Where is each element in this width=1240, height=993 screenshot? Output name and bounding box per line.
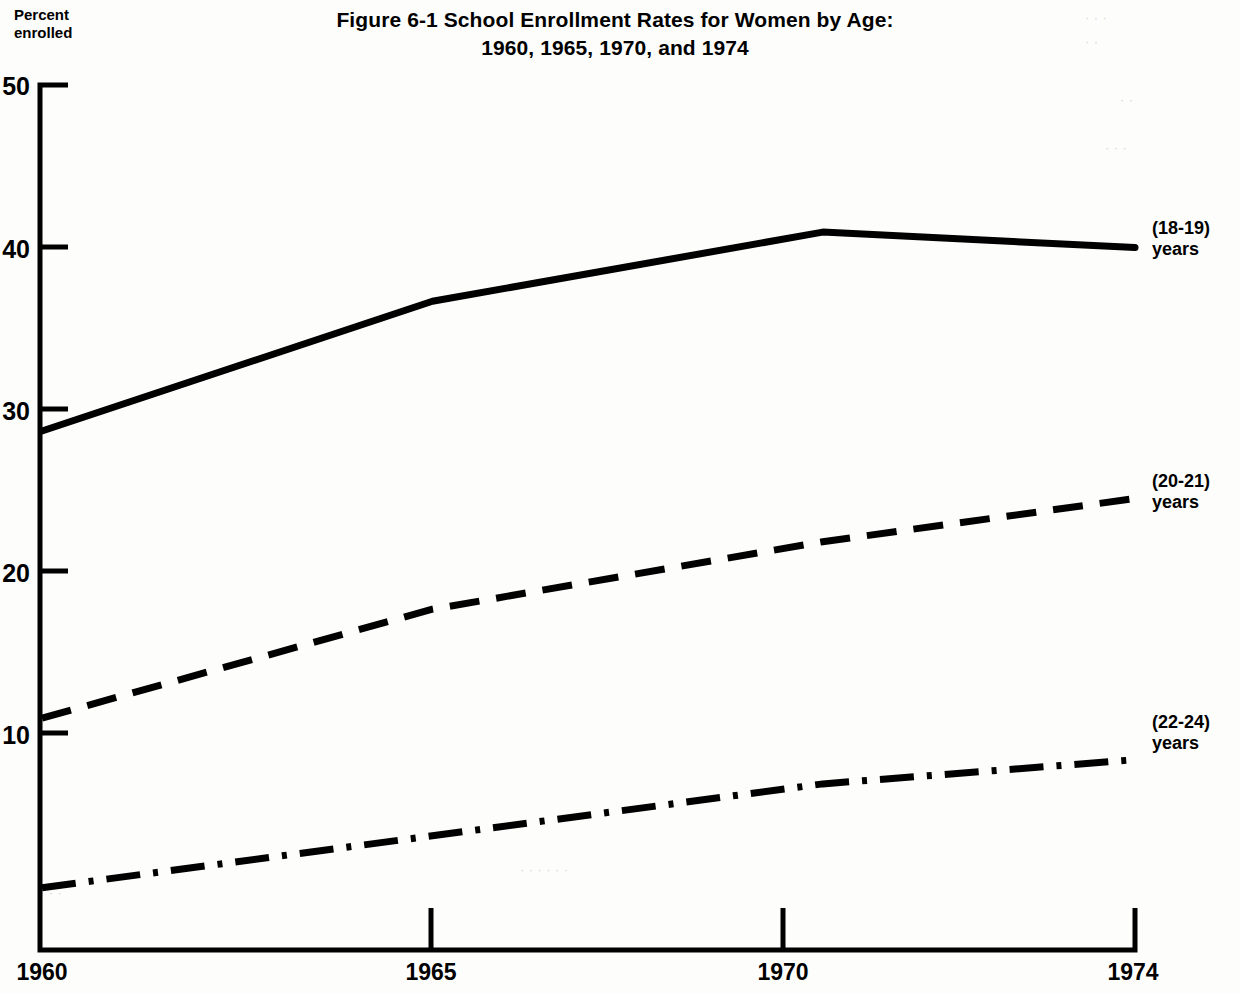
line-chart-plot: 50 40 30 20 10 1960 1965 1970 1974 (0, 0, 1240, 993)
y-tick-label-20: 20 (2, 559, 30, 587)
series-lines (42, 232, 1135, 888)
series-line-18-19 (42, 232, 1135, 431)
series-line-20-21 (42, 499, 1135, 719)
y-tick-label-30: 30 (2, 397, 30, 425)
series-label-22-24: (22-24) years (1152, 712, 1210, 754)
series-line-22-24 (42, 760, 1135, 888)
figure-root: · · · · · · · · · · · · · · · · · · · Pe… (0, 0, 1240, 993)
series-label-18-19: (18-19) years (1152, 218, 1210, 260)
x-tick-label-1965: 1965 (405, 959, 456, 985)
axis-spine (40, 85, 1135, 950)
y-tick-label-10: 10 (2, 721, 30, 749)
x-tick-label-1970: 1970 (757, 959, 808, 985)
y-tick-label-40: 40 (2, 235, 30, 263)
y-tick-marks (40, 247, 68, 733)
x-tick-marks (431, 908, 783, 950)
x-tick-label-1974: 1974 (1107, 959, 1158, 985)
x-tick-label-1960: 1960 (16, 959, 67, 985)
y-tick-label-50: 50 (2, 72, 30, 100)
series-label-20-21: (20-21) years (1152, 471, 1210, 513)
